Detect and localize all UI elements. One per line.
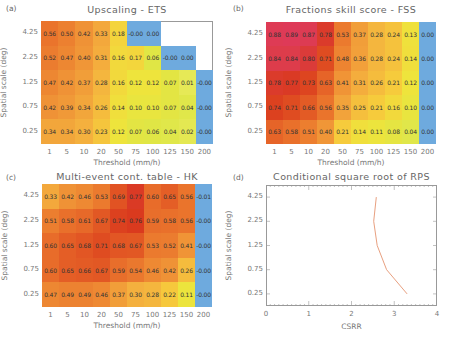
heatmap-cell: 0.89 <box>283 22 300 46</box>
y-tick-label: 4.25 <box>237 29 263 37</box>
y-axis-label: Spatial scale (deg) <box>0 195 9 295</box>
x-tick-label: 4 <box>425 310 449 318</box>
y-tick-label: 4.25 <box>237 192 263 200</box>
y-tick-label: 1.25 <box>13 241 39 249</box>
y-axis-label: Spatial scale (deg) <box>224 33 233 133</box>
heatmap-cell: 0.58 <box>59 209 76 234</box>
heatmap-cell: 0.22 <box>161 282 178 307</box>
chart-title: Multi-event cont. table - HK <box>42 171 212 182</box>
heatmap-cell: 0.12 <box>402 71 419 95</box>
heatmap-cell: -0.00 <box>195 209 212 234</box>
heatmap-cell: 0.35 <box>334 95 351 119</box>
heatmap-cell: 0.12 <box>144 70 161 95</box>
heatmap-cell: 0.59 <box>110 258 127 283</box>
panel-label: (a) <box>6 4 16 13</box>
x-tick-label: 200 <box>416 148 440 156</box>
heatmap-cell: -0.00 <box>161 46 178 71</box>
heatmap-cell: 0.00 <box>419 22 436 46</box>
heatmap-cell: 0.04 <box>179 95 196 120</box>
heatmap-cell: 0.46 <box>93 282 110 307</box>
heatmap-cell: -0.01 <box>195 184 212 209</box>
y-tick-label: 0.25 <box>13 290 39 298</box>
heatmap-cell: 0.88 <box>266 22 283 46</box>
y-axis-label: Spatial scale (deg) <box>224 195 233 295</box>
y-tick-label: 2.25 <box>12 53 38 61</box>
y-tick-label: 0.25 <box>12 127 38 135</box>
heatmap-cell: 0.37 <box>110 282 127 307</box>
heatmap-cell: 0.28 <box>368 46 385 70</box>
x-tick-label: 2 <box>340 310 364 318</box>
heatmap-cell: 0.71 <box>317 46 334 70</box>
heatmap-cell: 0.42 <box>161 258 178 283</box>
heatmap-cell: 0.65 <box>59 233 76 258</box>
heatmap-cell: 0.61 <box>76 209 93 234</box>
x-tick-label: 200 <box>192 311 216 319</box>
heatmap-cell: 0.56 <box>41 21 58 46</box>
heatmap-cell: 0.31 <box>351 71 368 95</box>
heatmap-cell: 0.06 <box>144 46 161 71</box>
heatmap-cell: 0.34 <box>58 119 75 144</box>
heatmap-cell: 0.12 <box>110 119 127 144</box>
heatmap-cell: 0.56 <box>178 209 195 234</box>
heatmap-cell: 0.67 <box>93 258 110 283</box>
y-tick-label: 0.75 <box>237 265 263 273</box>
heatmap-cell: 0.34 <box>75 95 92 120</box>
heatmap-cell: 0.47 <box>41 70 58 95</box>
heatmap-cell: 0.18 <box>110 21 127 46</box>
heatmap-cell: 0.28 <box>144 282 161 307</box>
heatmap-cell: 0.33 <box>93 21 110 46</box>
heatmap-cell: 0.01 <box>179 70 196 95</box>
heatmap-cell: 0.16 <box>385 95 402 119</box>
heatmap-cell: 0.11 <box>368 120 385 144</box>
panel-label: (b) <box>233 4 244 13</box>
heatmap-cell: 0.00 <box>179 46 196 71</box>
heatmap-cell: 0.39 <box>58 95 75 120</box>
x-axis-label: Threshold (mm/h) <box>42 321 212 330</box>
plot-area: 0.560.500.420.330.18-0.000.000.520.470.4… <box>41 21 213 144</box>
heatmap-cell: 0.41 <box>334 71 351 95</box>
y-tick-label: 2.25 <box>13 216 39 224</box>
heatmap-cell: 0.63 <box>317 71 334 95</box>
heatmap-cell: -0.00 <box>195 233 212 258</box>
heatmap-cell: 0.26 <box>178 258 195 283</box>
heatmap-cell: 0.37 <box>75 70 92 95</box>
heatmap-cell: 0.07 <box>161 95 178 120</box>
heatmap-cell: 0.53 <box>144 233 161 258</box>
heatmap-cell: 0.60 <box>144 184 161 209</box>
y-tick-label: 0.25 <box>237 127 263 135</box>
y-tick-label: 2.25 <box>237 216 263 224</box>
heatmap-cell: 0.65 <box>161 184 178 209</box>
heatmap-cell: 0.67 <box>127 233 144 258</box>
x-tick-label: 3 <box>382 310 406 318</box>
chart-title: Upscaling - ETS <box>41 4 213 15</box>
heatmap-cell: 0.87 <box>300 22 317 46</box>
heatmap-cell: 0.46 <box>144 258 161 283</box>
heatmap-cell: 0.49 <box>59 282 76 307</box>
heatmap-cell: 0.51 <box>42 209 59 234</box>
heatmap-cell: 0.04 <box>161 119 178 144</box>
plot-area <box>266 185 437 306</box>
heatmap-cell: 0.07 <box>161 70 178 95</box>
heatmap-cell: -0.00 <box>195 282 212 307</box>
heatmap-cell: 0.21 <box>368 95 385 119</box>
plot-area: 0.330.420.460.530.690.770.600.650.56-0.0… <box>42 184 212 307</box>
heatmap-cell: 0.14 <box>402 46 419 70</box>
heatmap-cell: 0.37 <box>351 22 368 46</box>
heatmap-cell: 0.50 <box>58 21 75 46</box>
heatmap-cell: 0.26 <box>93 95 110 120</box>
heatmap-cell: 0.30 <box>75 119 92 144</box>
y-tick-label: 0.75 <box>13 265 39 273</box>
y-tick-label: 4.25 <box>13 191 39 199</box>
y-tick-label: 0.75 <box>237 102 263 110</box>
heatmap-cell: 0.68 <box>110 233 127 258</box>
heatmap-cell: 0.63 <box>266 120 283 144</box>
heatmap-cell: 0.71 <box>283 95 300 119</box>
heatmap-cell: 0.60 <box>42 233 59 258</box>
heatmap-cell: 0.51 <box>300 120 317 144</box>
heatmap-cell: 0.28 <box>368 22 385 46</box>
plot-area: 0.880.890.870.780.530.370.280.240.130.00… <box>266 22 436 144</box>
heatmap-cell: 0.33 <box>42 184 59 209</box>
heatmap-cell: 0.77 <box>283 71 300 95</box>
heatmap-cell: 0.58 <box>161 209 178 234</box>
heatmap-cell: 0.41 <box>178 233 195 258</box>
